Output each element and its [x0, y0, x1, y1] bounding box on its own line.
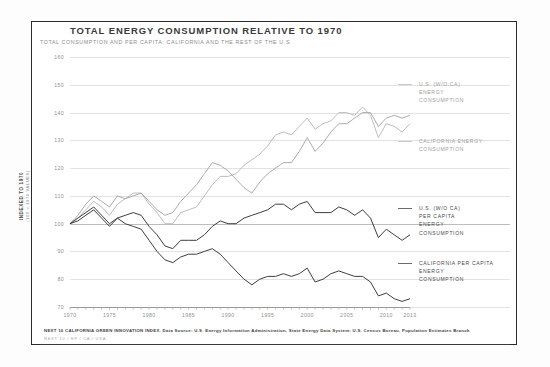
y-tick-130: 130 [42, 137, 64, 143]
gridline-140 [70, 113, 510, 114]
y-tick-160: 160 [42, 54, 64, 60]
x-axis-line [70, 307, 410, 308]
x-tick-1975: 1975 [95, 312, 125, 318]
y-tick-140: 140 [42, 110, 64, 116]
x-tick-1985: 1985 [174, 312, 204, 318]
x-tick-2000: 2000 [292, 312, 322, 318]
x-tick-1995: 1995 [253, 312, 283, 318]
x-tick-2005: 2005 [332, 312, 362, 318]
chart-page: TOTAL ENERGY CONSUMPTION RELATIVE TO 197… [0, 0, 550, 367]
y-tick-70: 70 [42, 304, 64, 310]
x-tick-1970: 1970 [55, 312, 85, 318]
y-tick-100: 100 [42, 221, 64, 227]
y-axis-label-main: INDEXED TO 1970 [19, 172, 24, 221]
y-tick-120: 120 [42, 165, 64, 171]
footer-source: NEXT 10 CALIFORNIA GREEN INNOVATION INDE… [44, 328, 470, 333]
y-axis-label-sub: (100 = 1970 VALUES) [25, 170, 30, 222]
footer-credit: NEXT 10 / EF / CA / USA [44, 336, 106, 341]
y-tick-80: 80 [42, 276, 64, 282]
y-tick-150: 150 [42, 82, 64, 88]
legend-label-2: U.S. (W/O CA) PER CAPITA ENERGY CONSUMPT… [419, 204, 464, 237]
chart-frame [31, 21, 517, 345]
chart-title: TOTAL ENERGY CONSUMPTION RELATIVE TO 197… [70, 25, 342, 36]
chart-subtitle: TOTAL CONSUMPTION AND PER CAPITA: CALIFO… [40, 39, 292, 45]
y-tick-90: 90 [42, 248, 64, 254]
x-tick-1990: 1990 [213, 312, 243, 318]
y-axis-label: INDEXED TO 1970 (100 = 1970 VALUES) [19, 153, 31, 239]
footer-rule [40, 344, 510, 345]
legend-label-3: CALIFORNIA PER CAPITA ENERGY CONSUMPTION [419, 259, 494, 284]
gridline-160 [70, 57, 510, 58]
gridline-120 [70, 168, 510, 169]
legend-label-1: CALIFORNIA ENERGY CONSUMPTION [419, 137, 483, 153]
legend-rule-0 [398, 84, 412, 85]
legend-rule-1 [398, 141, 412, 142]
x-tick-1980: 1980 [134, 312, 164, 318]
gridline-110 [70, 196, 510, 197]
legend-label-0: U.S. (W/O CA) ENERGY CONSUMPTION [419, 80, 464, 105]
legend-rule-3 [398, 263, 412, 264]
y-tick-110: 110 [42, 193, 64, 199]
x-tick-2013: 2013 [395, 312, 425, 318]
legend-rule-2 [398, 208, 412, 209]
gridline-90 [70, 251, 510, 252]
